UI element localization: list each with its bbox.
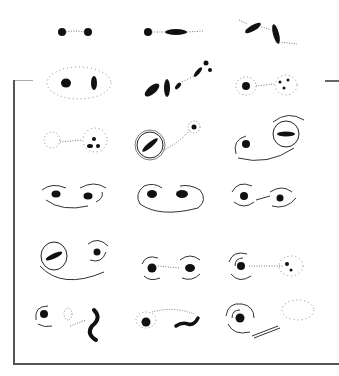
- panel-r2c3: [232, 68, 307, 104]
- frame-bottom-border: [13, 363, 339, 365]
- panel-r3c1: [40, 122, 115, 162]
- frame-top-stub: [13, 80, 33, 81]
- panel-r3c3: [228, 114, 313, 174]
- panel-r6c2: [134, 300, 214, 340]
- panel-r2c1: [42, 62, 117, 104]
- panel-r4c1: [36, 180, 114, 214]
- panel-r6c3: [220, 296, 320, 346]
- frame-right-stub: [325, 80, 339, 82]
- panel-r4c3: [226, 178, 308, 218]
- panel-r1c1: [50, 20, 110, 44]
- panel-r5c3: [225, 246, 313, 290]
- panel-r1c2: [140, 20, 210, 44]
- panel-r2c2: [138, 56, 220, 104]
- panel-r5c2: [134, 250, 214, 290]
- panel-r4c2: [130, 178, 212, 218]
- panel-r1c3: [235, 14, 305, 50]
- panel-r6c1: [32, 300, 114, 344]
- panel-r5c1: [32, 236, 117, 292]
- panel-r3c2: [128, 118, 213, 168]
- frame-left-border: [13, 80, 15, 365]
